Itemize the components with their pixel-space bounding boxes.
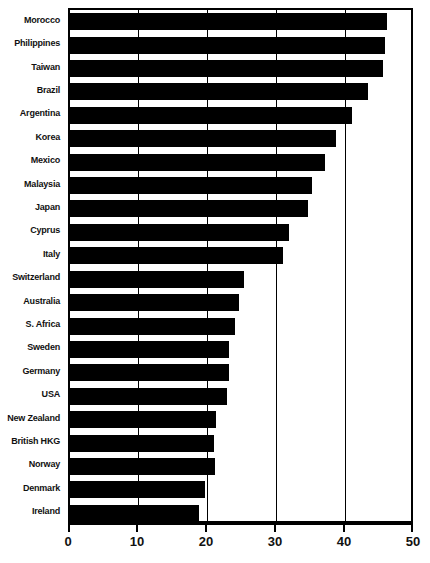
bar[interactable] [70, 130, 336, 147]
bar[interactable] [70, 435, 214, 452]
bar[interactable] [70, 318, 235, 335]
bar[interactable] [70, 224, 289, 241]
x-axis: 01020304050 [68, 523, 413, 563]
bar[interactable] [70, 247, 283, 264]
category-label: Morocco [0, 15, 60, 25]
bar[interactable] [70, 83, 368, 100]
category-label: Italy [0, 249, 60, 259]
bar[interactable] [70, 364, 229, 381]
bar[interactable] [70, 13, 387, 30]
x-tick-label: 40 [329, 534, 359, 549]
category-label: Switzerland [0, 272, 60, 282]
category-label: Denmark [0, 483, 60, 493]
bar[interactable] [70, 107, 352, 124]
category-label: USA [0, 389, 60, 399]
category-label: Australia [0, 296, 60, 306]
bar[interactable] [70, 481, 205, 498]
x-tick-40 [343, 525, 345, 532]
category-label: Brazil [0, 85, 60, 95]
category-label: Cyprus [0, 225, 60, 235]
x-tick-0 [68, 525, 70, 532]
x-tick-20 [205, 525, 207, 532]
x-tick-label: 30 [260, 534, 290, 549]
category-label: Sweden [0, 342, 60, 352]
x-tick-label: 0 [53, 534, 83, 549]
bar[interactable] [70, 341, 229, 358]
category-label: Ireland [0, 506, 60, 516]
bar-series [70, 10, 411, 521]
category-label: Malaysia [0, 179, 60, 189]
x-tick-label: 10 [122, 534, 152, 549]
bar[interactable] [70, 60, 383, 77]
x-axis-line [68, 523, 413, 525]
category-label: Philippines [0, 38, 60, 48]
plot-area [68, 8, 413, 523]
category-label: Korea [0, 132, 60, 142]
bar[interactable] [70, 200, 308, 217]
bar[interactable] [70, 388, 227, 405]
bar[interactable] [70, 271, 244, 288]
category-label: Norway [0, 459, 60, 469]
category-label: Germany [0, 366, 60, 376]
category-label-column: MoroccoPhilippinesTaiwanBrazilArgentinaK… [0, 8, 64, 523]
x-tick-label: 50 [398, 534, 428, 549]
bar-chart: MoroccoPhilippinesTaiwanBrazilArgentinaK… [0, 0, 430, 563]
bar[interactable] [70, 177, 312, 194]
category-label: British HKG [0, 436, 60, 446]
bar[interactable] [70, 458, 215, 475]
category-label: Mexico [0, 155, 60, 165]
bar[interactable] [70, 154, 325, 171]
category-label: S. Africa [0, 319, 60, 329]
bar[interactable] [70, 37, 385, 54]
category-label: Argentina [0, 108, 60, 118]
category-label: Japan [0, 202, 60, 212]
x-tick-30 [274, 525, 276, 532]
category-label: New Zealand [0, 413, 60, 423]
x-tick-10 [136, 525, 138, 532]
x-tick-label: 20 [191, 534, 221, 549]
bar[interactable] [70, 505, 199, 522]
bar[interactable] [70, 411, 216, 428]
bar[interactable] [70, 294, 239, 311]
category-label: Taiwan [0, 62, 60, 72]
x-axis-end-cap [411, 525, 413, 532]
